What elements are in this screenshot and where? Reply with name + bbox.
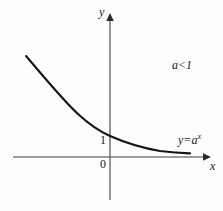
y-intercept-tick-label: 1: [100, 134, 106, 146]
origin-label: 0: [100, 158, 106, 170]
exponential-curve: [26, 56, 190, 153]
y-axis-arrowhead: [106, 13, 114, 21]
condition-annotation: a<1: [172, 59, 192, 71]
function-annotation-base: y=a: [178, 133, 197, 147]
x-axis-label: x: [210, 160, 215, 172]
exponential-function-figure: y x 0 1 a<1 y=ax: [0, 0, 223, 211]
function-annotation: y=ax: [178, 133, 201, 146]
function-annotation-exponent: x: [197, 132, 201, 141]
y-axis-label: y: [99, 6, 104, 18]
graph-canvas: [0, 0, 223, 211]
